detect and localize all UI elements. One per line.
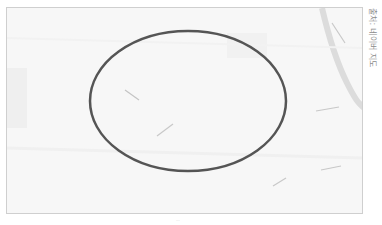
road-label: [332, 23, 345, 43]
road-label: [316, 107, 339, 111]
map-frame: [6, 7, 363, 214]
street: [7, 148, 363, 158]
road: [322, 8, 363, 108]
map-canvas: [7, 8, 363, 214]
road-label: [273, 178, 286, 186]
road-label: [157, 124, 173, 136]
road-label: [125, 90, 139, 100]
highlight-ellipse: [90, 31, 286, 171]
street: [7, 38, 363, 48]
footer-mark: ···: [176, 218, 180, 223]
road-label: [321, 166, 341, 170]
map-block: [7, 68, 27, 128]
source-caption-text: 출처: 네이버 지도: [368, 8, 379, 68]
source-caption: 출처: 네이버 지도: [367, 8, 381, 88]
